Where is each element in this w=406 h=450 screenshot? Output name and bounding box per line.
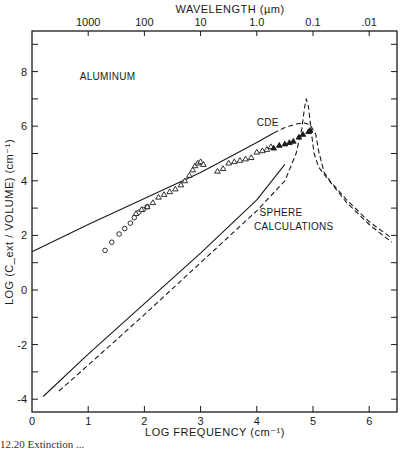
annotations: ALUMINUMCDESPHERECALCULATIONS: [80, 71, 334, 232]
y-tick-label: 4: [21, 175, 27, 187]
open-triangle-marker: [187, 173, 193, 178]
open-circle-marker: [132, 215, 137, 220]
y-tick-label: -2: [17, 339, 27, 351]
open-circle-marker: [110, 240, 115, 245]
data-series: [32, 99, 392, 397]
top-tick-label: 100: [135, 16, 153, 28]
data-markers: [103, 127, 313, 252]
series-line: [32, 133, 274, 252]
open-triangle-marker: [237, 158, 243, 163]
open-triangle-marker: [226, 160, 232, 165]
x-tick-label: 6: [366, 415, 372, 427]
open-triangle-marker: [254, 149, 260, 154]
open-triangle-marker: [150, 200, 156, 205]
x-tick-label: 5: [310, 415, 316, 427]
annotation-cde: CDE: [257, 117, 279, 128]
open-triangle-marker: [232, 159, 238, 164]
axis-ticks: 0123456-4-2024681000100101.00.1.01: [17, 16, 397, 427]
open-triangle-marker: [173, 186, 179, 191]
open-triangle-marker: [248, 155, 254, 160]
annotation-sphere: SPHERE: [260, 207, 303, 218]
open-circle-marker: [128, 221, 133, 226]
top-tick-label: 10: [194, 16, 206, 28]
open-triangle-marker: [161, 192, 167, 197]
x-tick-label: 1: [85, 415, 91, 427]
x-tick-label: 0: [29, 415, 35, 427]
y-tick-label: -4: [17, 393, 27, 405]
top-axis-title: WAVELENGTH (µm): [175, 3, 284, 15]
open-circle-marker: [103, 248, 108, 253]
open-circle-marker: [117, 232, 122, 237]
series-line: [59, 99, 392, 391]
y-tick-label: 6: [21, 120, 27, 132]
open-triangle-marker: [156, 194, 162, 199]
x-axis-title: LOG FREQUENCY (cm⁻¹): [145, 426, 285, 438]
y-tick-label: 0: [21, 284, 27, 296]
open-circle-marker: [122, 226, 127, 231]
axis-labels: WAVELENGTH (µm) LOG FREQUENCY (cm⁻¹) LOG…: [3, 3, 285, 438]
top-tick-label: 0.1: [305, 16, 320, 28]
top-tick-label: 1000: [76, 16, 100, 28]
y-tick-label: 2: [21, 229, 27, 241]
annotation-aluminum: ALUMINUM: [80, 71, 136, 82]
y-tick-label: 8: [21, 66, 27, 78]
open-triangle-marker: [220, 166, 226, 171]
filled-triangle-marker: [276, 143, 282, 148]
annotation-calculations: CALCULATIONS: [254, 221, 334, 232]
series-line: [43, 164, 285, 396]
open-triangle-marker: [167, 189, 173, 194]
figure-caption: 12.20 Extinction ...: [0, 438, 84, 450]
open-triangle-marker: [215, 168, 221, 173]
filled-triangle-marker: [291, 138, 297, 143]
top-tick-label: 1.0: [249, 16, 264, 28]
y-axis-title: LOG (C_ext / VOLUME) (cm⁻¹): [3, 139, 15, 305]
top-tick-label: .01: [362, 16, 377, 28]
filled-triangle-marker: [300, 132, 306, 137]
open-triangle-marker: [243, 156, 249, 161]
